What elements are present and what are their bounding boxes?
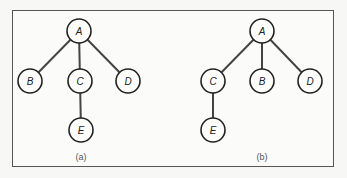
- node-D: D: [298, 69, 322, 93]
- node-D: D: [116, 69, 140, 93]
- caption-b: (b): [242, 152, 282, 162]
- tree-panel-a: ABCDE: [18, 19, 140, 142]
- node-label: C: [209, 76, 217, 87]
- node-B: B: [18, 69, 42, 93]
- node-label: B: [27, 76, 34, 87]
- node-label: E: [78, 125, 85, 136]
- node-label: A: [258, 26, 266, 37]
- node-A: A: [67, 19, 91, 43]
- node-label: D: [306, 76, 313, 87]
- node-C: C: [68, 69, 92, 93]
- node-label: B: [259, 76, 266, 87]
- caption-a: (a): [61, 152, 101, 162]
- node-label: A: [75, 26, 83, 37]
- node-C: C: [201, 69, 225, 93]
- node-B: B: [250, 69, 274, 93]
- node-label: D: [124, 76, 131, 87]
- tree-diagram: ABCDEACBDE: [0, 0, 347, 178]
- tree-panel-b: ACBDE: [201, 19, 322, 142]
- node-E: E: [201, 118, 225, 142]
- node-label: C: [76, 76, 84, 87]
- node-E: E: [69, 118, 93, 142]
- node-A: A: [250, 19, 274, 43]
- node-label: E: [210, 125, 217, 136]
